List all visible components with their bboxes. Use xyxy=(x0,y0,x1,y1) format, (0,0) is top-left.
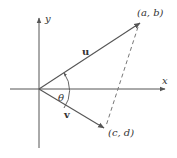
vector-v xyxy=(39,89,104,128)
angle-theta-label: θ xyxy=(58,92,64,103)
point-ab-label: (a, b) xyxy=(137,7,164,18)
x-axis-label: x xyxy=(162,75,168,86)
vector-v-label: v xyxy=(63,109,71,120)
vector-diagram: y x u v θ (a, b) (c, d) xyxy=(0,0,177,158)
y-axis-label: y xyxy=(44,13,51,24)
angle-arc xyxy=(64,73,70,108)
point-cd-label: (c, d) xyxy=(108,127,134,138)
vector-u xyxy=(39,23,140,89)
vector-u-label: u xyxy=(82,46,89,57)
